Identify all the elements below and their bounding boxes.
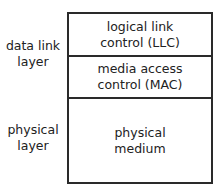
cell-line: media access [97,61,182,77]
cell-line: medium [114,141,165,157]
label-line: layer [0,138,66,154]
label-line: data link [0,38,66,54]
label-line: layer [0,54,66,70]
physical-medium: physical medium [69,99,211,182]
cell-line: control (MAC) [97,77,182,93]
mac-sublayer: media access control (MAC) [69,57,211,97]
cell-line: control (LLC) [100,35,180,51]
layer-stack: logical link control (LLC) media access … [67,12,213,184]
llc-sublayer: logical link control (LLC) [69,14,211,55]
data-link-layer-label: data link layer [0,38,66,70]
physical-layer-label: physical layer [0,122,66,154]
cell-line: logical link [100,19,180,35]
cell-line: physical [114,125,165,141]
label-line: physical [0,122,66,138]
